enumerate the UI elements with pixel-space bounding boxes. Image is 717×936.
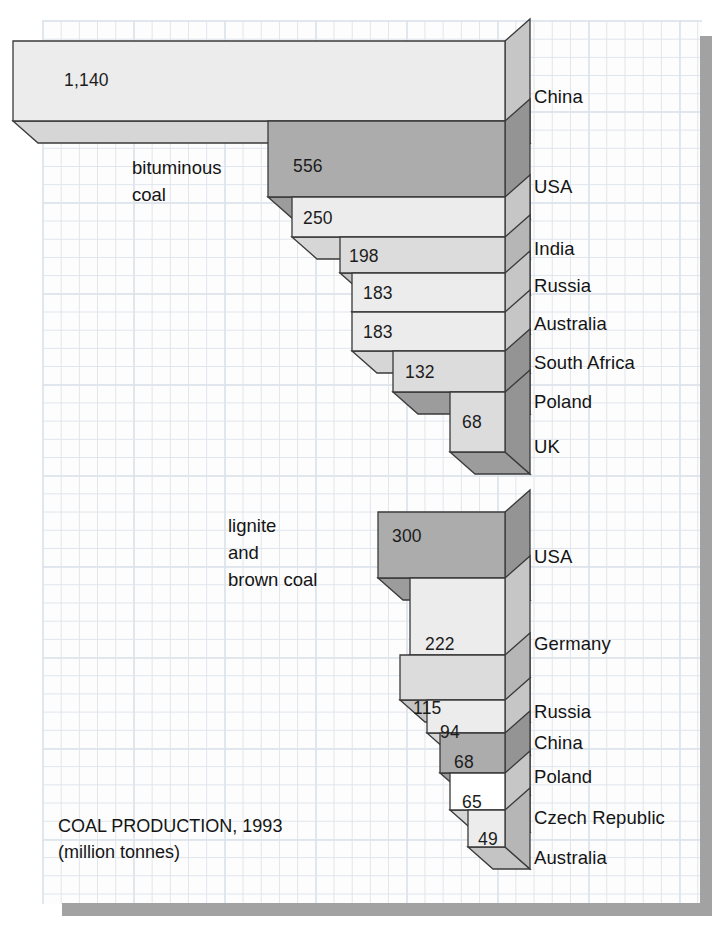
value-label-lignite-germany: 222	[425, 634, 455, 655]
country-label-bituminous-australia: Australia	[534, 313, 607, 335]
country-label-bituminous-china: China	[534, 86, 583, 108]
chart-caption: COAL PRODUCTION, 1993 (million tonnes)	[58, 813, 282, 865]
value-label-bituminous-china: 1,140	[64, 70, 109, 91]
annotation-lignite-brown-coal: lignite and brown coal	[228, 513, 317, 593]
country-label-lignite-russia: Russia	[534, 701, 591, 723]
value-label-lignite-china: 94	[440, 722, 460, 743]
country-label-bituminous-south-africa: South Africa	[534, 352, 635, 374]
value-label-lignite-usa: 300	[392, 526, 422, 547]
value-label-bituminous-india: 250	[303, 208, 333, 229]
value-label-lignite-russia: 115	[413, 698, 442, 719]
value-label-bituminous-poland: 132	[405, 362, 435, 383]
value-label-bituminous-uk: 68	[462, 412, 482, 433]
country-label-bituminous-russia: Russia	[534, 275, 591, 297]
value-label-lignite-czech: 65	[462, 792, 482, 813]
country-label-bituminous-poland: Poland	[534, 391, 592, 413]
value-label-bituminous-russia: 198	[349, 246, 379, 267]
bar-chart-stage: .fl { fill:#ececec; } /* light face */ .…	[0, 0, 717, 936]
value-label-lignite-poland: 68	[454, 752, 474, 773]
value-label-bituminous-australia: 183	[363, 283, 393, 304]
bars-svg: .fl { fill:#ececec; } /* light face */ .…	[0, 0, 717, 936]
country-label-bituminous-usa: USA	[534, 176, 572, 198]
caption-title: COAL PRODUCTION, 1993	[58, 813, 282, 839]
country-label-lignite-czech: Czech Republic	[534, 807, 665, 829]
country-label-lignite-australia: Australia	[534, 847, 607, 869]
value-label-bituminous-usa: 556	[293, 156, 323, 177]
country-label-lignite-poland: Poland	[534, 766, 592, 788]
value-label-lignite-australia: 49	[478, 829, 498, 850]
country-label-lignite-germany: Germany	[534, 633, 611, 655]
country-label-lignite-usa: USA	[534, 546, 572, 568]
value-label-bituminous-south-africa: 183	[363, 322, 393, 343]
annotation-bituminous-coal: bituminous coal	[132, 155, 221, 209]
caption-subtitle: (million tonnes)	[58, 839, 282, 865]
country-label-bituminous-india: India	[534, 238, 575, 260]
coal-production-chart-figure: .fl { fill:#ececec; } /* light face */ .…	[0, 0, 717, 936]
country-label-bituminous-uk: UK	[534, 436, 560, 458]
country-label-lignite-china: China	[534, 732, 583, 754]
